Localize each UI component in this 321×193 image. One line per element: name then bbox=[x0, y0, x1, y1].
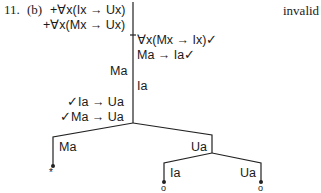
verdict: invalid bbox=[283, 4, 319, 18]
open-branch-marker-1: o bbox=[161, 181, 166, 193]
instantiation-ma-ia: Ma → Ia✓ bbox=[137, 48, 195, 62]
closed-branch-marker: * bbox=[49, 166, 53, 180]
negated-conclusion: ∀x(Mx → Ix)✓ bbox=[137, 33, 217, 47]
open-branch-marker-2: o bbox=[258, 181, 263, 193]
branch-right-ua: Ua bbox=[191, 140, 207, 154]
instantiation-ma-ua: ✓Ma → Ua bbox=[60, 110, 124, 124]
problem-part: (b) bbox=[27, 3, 42, 17]
premise-2: +∀x(Mx → Ux) bbox=[43, 18, 125, 32]
sub-branch-ia: Ia bbox=[170, 166, 180, 180]
problem-number: 11. bbox=[4, 3, 20, 17]
branch-left-ma: Ma bbox=[59, 140, 76, 154]
premise-1: +∀x(Ix → Ux) bbox=[50, 3, 125, 17]
node-ma: Ma bbox=[110, 64, 127, 78]
truth-tree-figure: 11. (b) invalid +∀x(Ix → Ux) +∀x(Mx → Ux… bbox=[0, 0, 321, 193]
instantiation-ia-ua: ✓Ia → Ua bbox=[67, 95, 124, 109]
sub-branch-ua: Ua bbox=[240, 166, 256, 180]
node-ia: Ia bbox=[137, 79, 147, 93]
